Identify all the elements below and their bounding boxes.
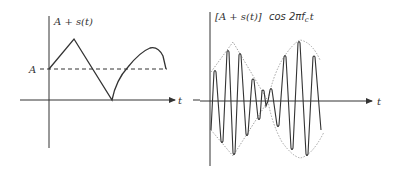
right-y-axis-label: [A + s(t)] cos 2πfct (215, 11, 315, 24)
left-plot: A + s(t) A t (20, 16, 200, 148)
right-x-axis-label: t (377, 96, 382, 107)
upper-envelope (211, 40, 320, 101)
lower-envelope (211, 101, 324, 158)
left-x-axis-label: t (178, 95, 183, 106)
am-diagram: A + s(t) A t [A + s(t)] cos 2πfct t (0, 0, 402, 176)
left-y-axis-label: A + s(t) (53, 16, 93, 27)
level-a-label: A (28, 64, 36, 75)
right-plot: [A + s(t)] cos 2πfct t (200, 11, 382, 166)
